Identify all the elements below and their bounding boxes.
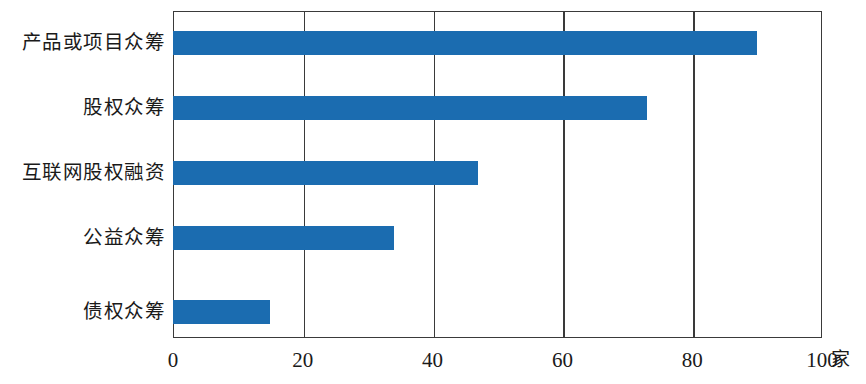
x-axis-tick-labels: 0 20 40 60 80 100	[0, 345, 866, 379]
bar-4[interactable]	[173, 300, 270, 324]
category-label-2: 互联网股权融资	[0, 161, 165, 185]
bars-layer	[173, 11, 822, 338]
chart-container: 产品或项目众筹 股权众筹 互联网股权融资 公益众筹 债权众筹 0 20 40 6…	[0, 0, 866, 384]
category-label-4: 债权众筹	[0, 300, 165, 324]
category-label-1: 股权众筹	[0, 96, 165, 120]
category-label-0: 产品或项目众筹	[0, 31, 165, 55]
bar-0[interactable]	[173, 31, 757, 55]
xtick-label-60: 60	[552, 345, 573, 375]
xtick-label-80: 80	[682, 345, 703, 375]
xtick-label-20: 20	[292, 345, 313, 375]
category-axis: 产品或项目众筹 股权众筹 互联网股权融资 公益众筹 债权众筹	[0, 11, 165, 338]
xtick-label-0: 0	[168, 345, 179, 375]
bar-3[interactable]	[173, 226, 394, 250]
category-label-3: 公益众筹	[0, 226, 165, 250]
x-axis-unit-label: 家	[831, 345, 850, 375]
bar-1[interactable]	[173, 96, 647, 120]
xtick-label-40: 40	[422, 345, 443, 375]
bar-2[interactable]	[173, 161, 478, 185]
